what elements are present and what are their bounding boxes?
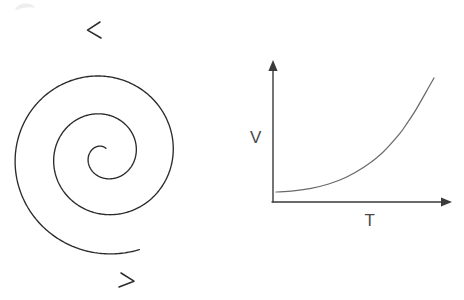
- vt-chart: V T: [250, 60, 452, 230]
- x-axis-label: T: [365, 211, 376, 230]
- x-axis-arrow-icon: [441, 197, 452, 206]
- y-axis: [268, 60, 277, 202]
- scan-smudge: [15, 4, 35, 10]
- spiral-arrow-bottom: [119, 273, 134, 287]
- figure-canvas: V T: [0, 0, 464, 300]
- vt-curve-path: [276, 78, 434, 192]
- spiral-arrow-top: [88, 22, 102, 38]
- x-axis: [272, 197, 452, 206]
- y-axis-arrow-icon: [268, 60, 277, 71]
- spiral-path: [15, 76, 173, 254]
- spiral-figure: [15, 22, 173, 287]
- figure-svg: V T: [0, 0, 464, 300]
- y-axis-label: V: [250, 128, 262, 147]
